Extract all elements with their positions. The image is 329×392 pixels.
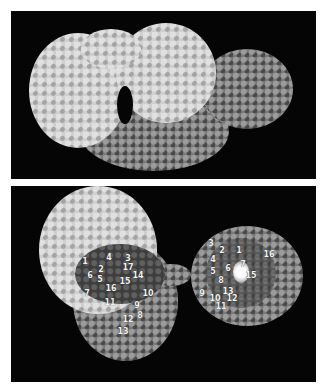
left-residue-label: 12	[122, 316, 133, 324]
right-residue-label: 3	[208, 240, 214, 248]
right-residue-label: 5	[210, 268, 216, 276]
right-residue-label: 7	[240, 261, 246, 269]
top-molecule-panel	[11, 11, 316, 179]
left-residue-label: 8	[137, 312, 143, 320]
right-residue-label: 8	[218, 277, 224, 285]
mid-subunit-right	[201, 49, 293, 129]
light-subunit-top	[81, 29, 141, 69]
left-residue-label: 10	[142, 290, 153, 298]
right-residue-label: 12	[226, 295, 237, 303]
right-residue-label: 9	[199, 290, 205, 298]
right-residue-label: 1	[236, 247, 242, 255]
left-residue-label: 4	[106, 254, 112, 262]
left-residue-label: 14	[132, 272, 143, 280]
right-residue-label: 4	[210, 256, 216, 264]
left-residue-label: 7	[84, 290, 90, 298]
right-residue-label: 6	[225, 265, 231, 273]
central-cavity	[117, 86, 133, 124]
left-residue-label: 6	[87, 272, 93, 280]
right-residue-label: 15	[245, 272, 256, 280]
left-residue-label: 13	[117, 328, 128, 336]
left-residue-label: 5	[97, 276, 103, 284]
right-residue-label: 2	[219, 247, 225, 255]
left-residue-label: 1	[82, 258, 88, 266]
left-residue-label: 16	[105, 285, 116, 293]
bottom-molecule-panel	[11, 186, 316, 382]
left-residue-label: 15	[119, 278, 130, 286]
right-residue-label: 11	[215, 303, 226, 311]
left-residue-label: 3	[125, 255, 131, 263]
left-residue-label: 11	[104, 299, 115, 307]
left-residue-label: 2	[98, 266, 104, 274]
left-residue-label: 9	[134, 302, 140, 310]
right-residue-label: 16	[263, 251, 274, 259]
